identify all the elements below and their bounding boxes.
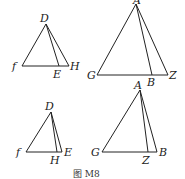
triangle-top-right: A G B Z [87,0,177,89]
segment-Df [26,112,51,152]
label-D: D [44,100,54,113]
triangle-bottom-left: D f H E [15,100,72,167]
label-A-top: A [133,79,142,92]
label-Z: Z [168,69,177,82]
label-E: E [52,68,61,81]
segment-AG [102,90,140,152]
label-E: E [63,146,72,159]
label-G: G [91,146,100,159]
label-D: D [39,12,49,25]
label-B: B [146,76,155,89]
geometry-diagram: D f E H A G B Z D f H E A G Z B 图 M8 [0,0,185,179]
segment-AZ [140,90,148,152]
triangle-top-left: D f E H [11,12,80,81]
segment-AZ [136,4,168,75]
label-B: B [158,146,167,159]
label-H: H [49,154,60,167]
figure-caption: 图 M8 [73,169,100,179]
segment-Df [22,24,46,66]
segment-AB [136,4,152,75]
segment-AB [140,90,157,152]
label-A: A [132,0,141,7]
label-G: G [87,69,96,82]
label-f: f [15,146,22,159]
triangle-bottom-right: A G Z B [91,79,167,167]
label-H: H [69,60,80,73]
segment-AG [97,4,136,75]
label-f: f [11,60,18,73]
label-Z: Z [141,154,150,167]
